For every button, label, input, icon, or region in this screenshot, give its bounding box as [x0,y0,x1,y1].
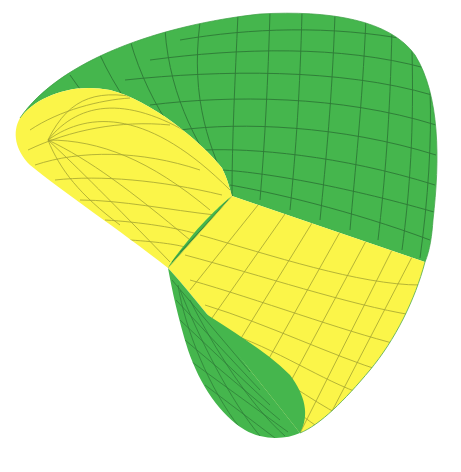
surface-render [0,0,461,472]
surface-figure: 3D parametric surface rendering [0,0,461,472]
